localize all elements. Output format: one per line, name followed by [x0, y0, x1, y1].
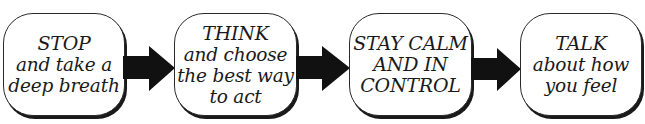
- step-line: the best way: [177, 65, 294, 86]
- step-box-stay-calm: STAY CALM AND IN CONTROL: [349, 13, 472, 116]
- right-arrow-icon: [296, 46, 351, 92]
- step-line: and choose: [177, 44, 294, 65]
- right-arrow-icon: [471, 48, 522, 92]
- step-text: STAY CALM AND IN CONTROL: [353, 33, 468, 96]
- step-text: TALK about how you feel: [533, 33, 629, 96]
- step-line: you feel: [533, 75, 629, 96]
- step-headline: TALK: [533, 33, 629, 54]
- step-line: about how: [533, 54, 629, 75]
- step-headline: CONTROL: [353, 75, 468, 96]
- step-headline: AND IN: [353, 54, 468, 75]
- step-headline: STAY CALM: [353, 33, 468, 54]
- step-text: THINK and choose the best way to act: [177, 23, 294, 107]
- step-text: STOP and take a deep breath: [8, 33, 119, 96]
- step-box-stop: STOP and take a deep breath: [3, 13, 125, 116]
- step-line: and take a: [8, 54, 119, 75]
- step-box-talk: TALK about how you feel: [520, 13, 642, 116]
- step-headline: THINK: [177, 23, 294, 44]
- step-headline: STOP: [8, 33, 119, 54]
- step-line: deep breath: [8, 75, 119, 96]
- right-arrow-icon: [123, 46, 176, 92]
- step-box-think: THINK and choose the best way to act: [174, 13, 297, 116]
- step-line: to act: [177, 86, 294, 107]
- cropped-text-fragment: [0, 0, 300, 7]
